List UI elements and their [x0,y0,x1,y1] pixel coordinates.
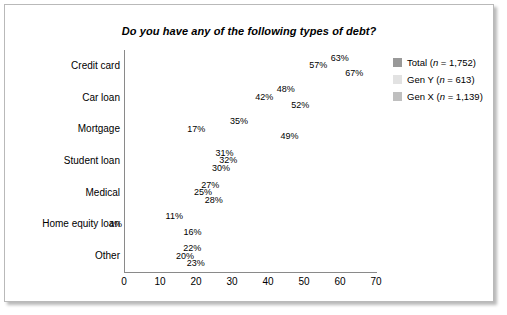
category-label: Credit card [8,60,120,71]
bar-value-label: 4% [109,219,122,229]
x-tick-10: 10 [145,276,175,287]
legend-item: Gen Y (n = 613) [393,72,491,87]
category-label: Other [8,250,120,261]
bar-value-label: 35% [230,116,248,126]
bar: 57% [124,62,329,69]
legend-label: Gen X (n = 1,139) [407,91,483,102]
category-label: Student loan [8,155,120,166]
bar: 52% [124,102,311,109]
category-label: Medical [8,187,120,198]
legend-item: Gen X (n = 1,139) [393,89,491,104]
bar-value-label: 49% [280,131,298,141]
bar-value-label: 63% [331,53,349,63]
x-tick-30: 30 [217,276,247,287]
x-axis-line [124,272,377,273]
bar: 67% [124,70,365,77]
bar-value-label: 52% [291,100,309,110]
chart-title: Do you have any of the following types o… [5,25,493,37]
x-tick-40: 40 [253,276,283,287]
bar: 28% [124,197,225,204]
x-tick-70: 70 [361,276,391,287]
legend-swatch-icon [393,75,402,84]
bar-value-label: 57% [309,60,327,70]
category-label: Car loan [8,92,120,103]
x-tick-50: 50 [289,276,319,287]
category-label: Home equity loan [8,218,120,229]
legend-label: Gen Y (n = 613) [407,74,475,85]
bar: 16% [124,229,182,236]
bar-value-label: 48% [277,84,295,94]
bar-group: 22%20%23% [124,245,376,267]
legend-item: Total (n = 1,752) [393,55,491,70]
bar-group: 48%42%52% [124,86,376,108]
bar-value-label: 17% [187,124,205,134]
bar-value-label: 67% [345,68,363,78]
bar: 11% [124,213,164,220]
bar: 23% [124,260,207,267]
bar-group: 31%32%30% [124,150,376,172]
x-tick-0: 0 [109,276,139,287]
bar: 25% [124,189,214,196]
bar-value-label: 42% [255,92,273,102]
bar-group: 35%17%49% [124,118,376,140]
bar: 4% [124,221,138,228]
bar-value-label: 23% [187,258,205,268]
bar-group: 11%4%16% [124,213,376,235]
bar: 30% [124,165,232,172]
category-axis-labels: Credit cardCar loanMortgageStudent loanM… [5,50,120,272]
bar: 20% [124,253,196,260]
x-tick-60: 60 [325,276,355,287]
bar: 49% [124,133,300,140]
category-label: Mortgage [8,123,120,134]
chart-legend: Total (n = 1,752)Gen Y (n = 613)Gen X (n… [393,55,491,106]
bar-value-label: 28% [205,195,223,205]
legend-label: Total (n = 1,752) [407,57,476,68]
bar-value-label: 30% [212,163,230,173]
legend-swatch-icon [393,58,402,67]
plot-area: 63%57%67%48%42%52%35%17%49%31%32%30%27%2… [124,50,376,272]
bar-value-label: 16% [184,227,202,237]
bar-group: 27%25%28% [124,182,376,204]
bar: 17% [124,126,185,133]
bar-group: 63%57%67% [124,55,376,77]
bar: 42% [124,94,275,101]
legend-swatch-icon [393,92,402,101]
x-tick-20: 20 [181,276,211,287]
bar-value-label: 11% [166,211,183,221]
chart-card: Do you have any of the following types o… [4,4,494,302]
